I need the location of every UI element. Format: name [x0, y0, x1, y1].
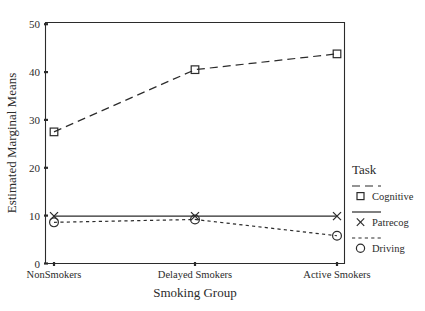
circle-marker-driving-active — [333, 231, 342, 240]
square-marker-legend-cognitive — [357, 193, 364, 200]
y-axis-title: Estimated Marginal Means — [4, 73, 19, 214]
x-category-label-nonsmokers: NonSmokers — [27, 269, 82, 280]
legend-entry-cognitive[interactable]: Cognitive — [352, 186, 414, 202]
legend-label-patrecog: Patrecog — [372, 217, 409, 228]
y-tick-label-0: 0 — [35, 258, 41, 270]
square-marker-cognitive-active — [333, 50, 341, 58]
legend-title: Task — [352, 162, 377, 177]
y-tick-label-40: 40 — [29, 66, 41, 78]
x-category-label-active-smokers: Active Smokers — [303, 269, 370, 280]
chart-figure: 0 10 20 30 40 50 NonSmokers Delayed Smok… — [0, 0, 425, 311]
legend-entry-driving[interactable]: Driving — [352, 238, 405, 254]
y-tick-label-50: 50 — [29, 18, 41, 30]
y-tick-label-30: 30 — [29, 114, 41, 126]
series-line-driving — [54, 219, 337, 235]
legend-entry-patrecog[interactable]: Patrecog — [352, 212, 409, 228]
y-tick-label-10: 10 — [29, 210, 41, 222]
x-marker-legend-patrecog — [357, 218, 364, 225]
legend-label-cognitive: Cognitive — [372, 191, 414, 202]
x-category-label-delayed-smokers: Delayed Smokers — [158, 269, 232, 280]
line-chart-canvas: 0 10 20 30 40 50 NonSmokers Delayed Smok… — [0, 0, 425, 311]
x-axis-title: Smoking Group — [153, 285, 236, 300]
legend: Task Cognitive Patrecog Driving — [352, 162, 414, 254]
y-tick-label-20: 20 — [29, 162, 41, 174]
legend-label-driving: Driving — [372, 243, 405, 254]
circle-marker-legend-driving — [356, 244, 364, 252]
